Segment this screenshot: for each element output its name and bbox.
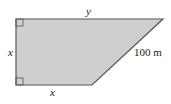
label-slant-length: 100 m	[134, 46, 162, 58]
label-bottom-x: x	[49, 86, 55, 98]
trapezoid-diagram: y x x 100 m	[0, 0, 171, 104]
label-left-x: x	[7, 46, 13, 58]
label-top-y: y	[85, 5, 91, 17]
